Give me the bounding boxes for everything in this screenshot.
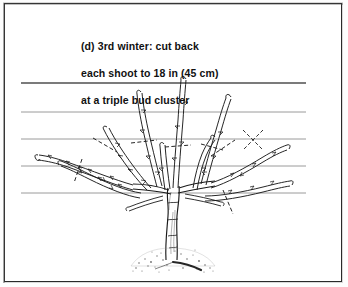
caption-line-2: each shoot to 18 in (45 cm): [81, 67, 311, 81]
cut-mark-centre: [165, 145, 191, 147]
primary-arms: [133, 181, 215, 194]
shoot-outer-right: [205, 181, 293, 201]
figure-panel: (d) 3rd winter: cut back each shoot to 1…: [0, 0, 348, 287]
caption-line-1: (d) 3rd winter: cut back: [81, 40, 311, 54]
cut-mark-left-upper: [131, 140, 157, 143]
trunk-shading: [169, 192, 175, 254]
shoot-left-mid: [103, 126, 151, 190]
cut-mark-left-mid: [93, 138, 117, 152]
trunk: [166, 186, 180, 260]
figure-caption: (d) 3rd winter: cut back each shoot to 1…: [81, 26, 311, 121]
soil-mound: [131, 248, 215, 273]
shoot-left-stub: [126, 196, 163, 211]
cut-marks-extra: [243, 130, 263, 150]
caption-line-3: at a triple bud cluster: [81, 94, 311, 108]
illustration-plate: (d) 3rd winter: cut back each shoot to 1…: [4, 3, 342, 282]
